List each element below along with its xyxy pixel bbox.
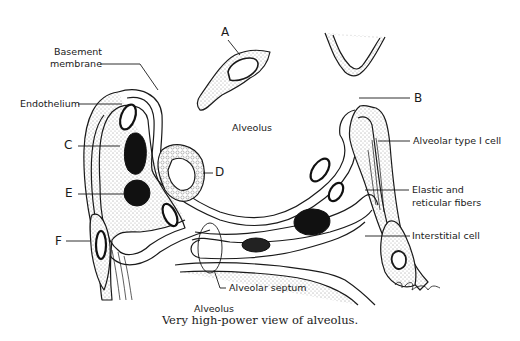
leader-a (228, 40, 240, 55)
label-alveolar-type-1-cell: Alveolar type I cell (413, 135, 501, 146)
label-alveolar-septum: Alveolar septum (229, 282, 307, 293)
leader-basement (100, 64, 158, 90)
label-f: F (55, 235, 62, 248)
label-e: E (65, 187, 73, 200)
label-endothelium: Endothelium (20, 98, 80, 109)
label-b: B (414, 92, 422, 105)
label-elastic-fibers-line2: reticular fibers (412, 197, 481, 208)
nucleus-c (124, 133, 146, 174)
rbc-septum (293, 207, 331, 236)
nucleus-right-upper (307, 155, 333, 184)
nucleus-right-mid (326, 180, 346, 203)
septum-top (195, 195, 378, 235)
label-interstitial-cell: Interstitial cell (412, 230, 480, 241)
label-basement-membrane-line1: Basement (54, 46, 102, 57)
figure-caption: Very high-power view of alveolus. (0, 313, 520, 327)
label-alveolus-top: Alveolus (232, 122, 272, 133)
label-elastic-fibers-line1: Elastic and (412, 184, 464, 195)
label-a: A (221, 26, 229, 39)
label-d: D (215, 166, 224, 179)
nucleus-septum (242, 238, 270, 252)
label-basement-membrane-line2: membrane (50, 58, 102, 69)
red-blood-cell-e (124, 180, 150, 206)
label-c: C (64, 139, 72, 152)
nucleus-f (96, 231, 106, 259)
